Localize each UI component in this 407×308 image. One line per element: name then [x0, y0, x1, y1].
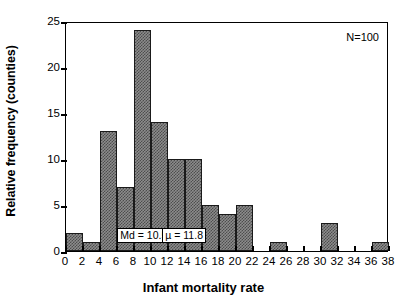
y-axis-title: Relative frequency (counties): [0, 0, 22, 262]
y-axis-tick-label: 20: [24, 62, 60, 74]
histogram-figure: Relative frequency (counties) 0510152025…: [0, 0, 407, 308]
y-axis-tick-label: 5: [24, 200, 60, 212]
y-axis-tick-label: 10: [24, 154, 60, 166]
y-axis-title-text: Relative frequency (counties): [4, 45, 18, 216]
x-axis-tick-labels: 02468101214161820222426283032343638: [65, 0, 388, 308]
y-axis-tick-label: 15: [24, 108, 60, 120]
y-axis-tick-label: 25: [24, 16, 60, 28]
x-axis-tick-label: 38: [378, 256, 398, 268]
x-axis-title: Infant mortality rate: [0, 280, 407, 295]
x-axis-tick: [388, 246, 389, 251]
y-axis-tick-labels: 0510152025: [20, 0, 60, 308]
